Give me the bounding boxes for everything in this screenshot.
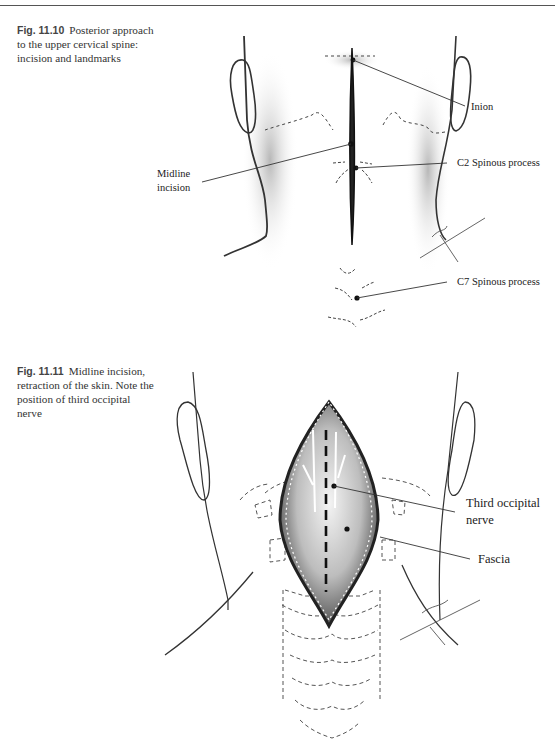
inion-leader <box>353 60 465 106</box>
left-shoulder-outline <box>165 572 253 655</box>
right-ear-icon <box>448 402 475 495</box>
label-midline-incision-line2: incision <box>157 182 191 193</box>
fascia-leader <box>380 537 470 559</box>
label-c2-spinous-process: C2 Spinous process <box>457 157 540 168</box>
left-neck-outline <box>193 372 228 610</box>
right-neck-outline <box>439 372 458 620</box>
fascia-marker <box>344 526 349 531</box>
right-shoulder-outline <box>402 565 458 645</box>
left-ear-icon <box>177 402 209 500</box>
label-third-occipital-nerve-line1: Third occipital <box>466 496 540 510</box>
label-midline-incision-line1: Midline <box>157 168 191 179</box>
label-inion: Inion <box>471 101 494 112</box>
label-third-occipital-nerve-line2: nerve <box>466 513 494 527</box>
figure-11-10-illustration: Inion Midline incision C2 Spinous proces… <box>0 0 555 747</box>
figure-11-11-illustration: Third occipital nerve Fascia <box>165 372 540 738</box>
label-c7-spinous-process: C7 Spinous process <box>457 276 540 287</box>
c7-leader <box>357 282 447 298</box>
label-fascia: Fascia <box>478 552 510 566</box>
